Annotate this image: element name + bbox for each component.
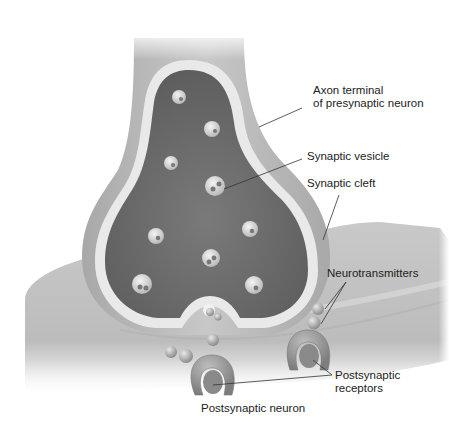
label-axon-terminal: Axon terminal of presynaptic neuron: [313, 84, 424, 110]
label-neurotransmitters: Neurotransmitters: [327, 267, 418, 280]
vesicle: [242, 221, 258, 237]
label-axon-terminal-line2: of presynaptic neuron: [313, 97, 424, 110]
label-postsynaptic-receptors-line2: receptors: [335, 382, 400, 395]
label-synaptic-cleft: Synaptic cleft: [307, 177, 375, 190]
label-postsynaptic-neuron: Postsynaptic neuron: [201, 402, 305, 415]
label-synaptic-vesicle: Synaptic vesicle: [307, 150, 389, 163]
vesicle: [164, 156, 178, 170]
label-postsynaptic-receptors: Postsynaptic receptors: [335, 369, 400, 395]
vesicle: [245, 276, 263, 294]
vesicle: [132, 274, 152, 294]
vesicle: [172, 90, 186, 104]
vesicle: [205, 176, 225, 196]
label-postsynaptic-receptors-line1: Postsynaptic: [335, 369, 400, 382]
vesicle: [202, 249, 220, 267]
vesicle: [148, 228, 164, 244]
label-axon-terminal-line1: Axon terminal: [313, 84, 424, 97]
vesicle: [204, 121, 220, 137]
